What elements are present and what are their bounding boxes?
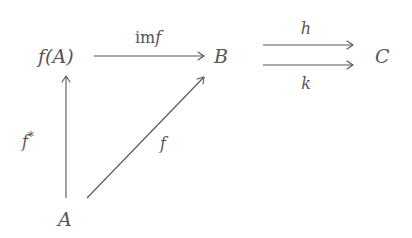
edge-imf-label: imf [135, 28, 164, 47]
edge-f-label: f [159, 134, 169, 153]
node-A: A [56, 208, 72, 230]
edge-f-star: f* [21, 76, 70, 198]
node-C-label: C [375, 45, 390, 67]
edge-h: h [263, 19, 353, 49]
edge-f-star-label-sup: * [28, 130, 34, 144]
edge-imf-label-prefix: im [135, 28, 155, 47]
edge-h-label: h [301, 19, 311, 38]
node-B-label: B [213, 45, 228, 67]
edge-f: f [87, 77, 204, 198]
node-B: B [213, 45, 228, 67]
node-f-of-A: f(A) [36, 45, 74, 67]
node-A-label: A [56, 208, 72, 230]
edge-f-star-label: f* [21, 130, 34, 151]
node-C: C [375, 45, 390, 67]
edge-imf: imf [94, 28, 204, 60]
commutative-diagram: f(A) B C A imf h k f* [0, 0, 412, 238]
node-f-of-A-label: f(A) [36, 45, 74, 67]
edge-k: k [263, 61, 353, 93]
edge-imf-label-var: f [154, 28, 164, 47]
edge-k-label: k [301, 74, 311, 93]
edge-f-line [87, 77, 204, 198]
